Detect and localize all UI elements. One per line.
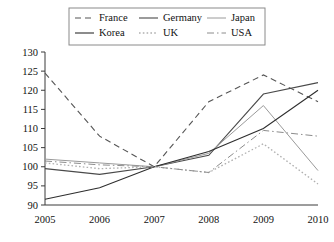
x-tick-label: 2006	[89, 214, 110, 225]
x-tick-label: 2010	[308, 214, 329, 225]
x-tick-label: 2005	[35, 214, 56, 225]
x-tick-label: 2007	[144, 214, 165, 225]
legend-label-usa: USA	[231, 27, 252, 38]
legend-label-japan: Japan	[231, 12, 256, 23]
y-tick-label: 115	[23, 104, 38, 115]
series-line-usa	[45, 130, 318, 172]
legend-label-france: France	[99, 12, 128, 23]
legend-label-korea: Korea	[99, 27, 125, 38]
legend-label-uk: UK	[163, 27, 179, 38]
series-line-korea	[45, 90, 318, 199]
line-chart: 9095100105110115120125130200520062007200…	[0, 0, 334, 242]
series-line-germany	[45, 83, 318, 175]
y-tick-label: 90	[28, 200, 39, 211]
y-tick-label: 105	[22, 142, 38, 153]
legend-label-germany: Germany	[163, 12, 203, 23]
chart-canvas: 9095100105110115120125130200520062007200…	[0, 0, 334, 242]
y-tick-label: 120	[22, 85, 38, 96]
y-tick-label: 100	[22, 161, 38, 172]
x-tick-label: 2008	[198, 214, 219, 225]
series-line-uk	[45, 144, 318, 184]
y-tick-label: 95	[28, 180, 39, 191]
x-tick-label: 2009	[253, 214, 274, 225]
y-tick-label: 130	[22, 47, 38, 58]
y-tick-label: 110	[23, 123, 38, 134]
y-tick-label: 125	[22, 66, 38, 77]
series-line-france	[45, 73, 318, 167]
